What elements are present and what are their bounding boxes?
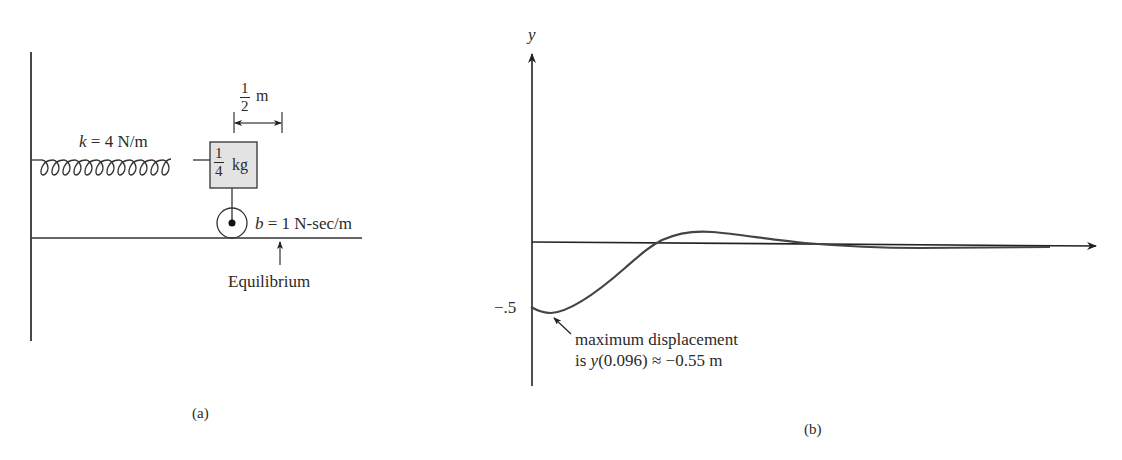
annotation-line-1: maximum displacement (575, 331, 738, 348)
spring-constant-var: k (79, 132, 87, 151)
spring-constant-label: k = 4 N/m (79, 133, 148, 150)
annotation-prefix: is (575, 351, 591, 370)
annotation-var: y (591, 351, 599, 370)
damper-hub (229, 220, 236, 227)
damping-value: = 1 N-sec/m (264, 214, 352, 233)
spring-coil (41, 159, 171, 175)
mass-denominator: 4 (215, 163, 223, 179)
annotation-line-2: is y(0.096) ≈ −0.55 m (575, 352, 722, 369)
damping-var: b (255, 214, 264, 233)
equilibrium-label: Equilibrium (228, 273, 310, 290)
mass-numerator: 1 (214, 146, 224, 163)
spring-constant-value: = 4 N/m (87, 132, 148, 151)
mass-fraction: 1 4 (214, 146, 224, 179)
mass-unit: kg (232, 157, 248, 173)
damping-label: b = 1 N-sec/m (255, 215, 352, 232)
panel-a-caption: (a) (192, 406, 209, 421)
displacement-denominator: 2 (241, 98, 249, 114)
figure-canvas (0, 0, 1122, 460)
displacement-fraction: 1 2 (240, 81, 250, 114)
displacement-numerator: 1 (240, 81, 250, 98)
y-tick-label: −.5 (494, 299, 516, 316)
annotation-value: (0.096) ≈ −0.55 m (598, 351, 722, 370)
annotation-arrow (554, 318, 571, 334)
panel-a-diagram (31, 52, 362, 341)
panel-b-caption: (b) (804, 422, 822, 437)
y-axis-label: y (528, 26, 536, 43)
displacement-unit: m (256, 88, 268, 104)
